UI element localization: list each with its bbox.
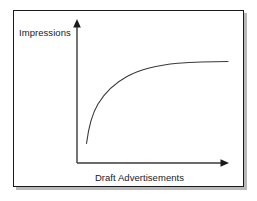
x-axis-label: Draft Advertisements [0, 172, 257, 183]
y-axis-label: Impressions [19, 27, 71, 38]
